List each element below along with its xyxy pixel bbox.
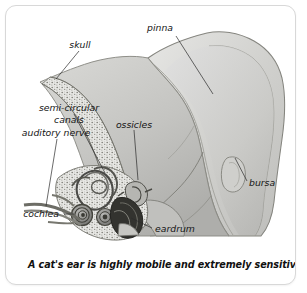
label-auditory-nerve: auditory nerve	[22, 127, 91, 138]
label-skull: skull	[69, 39, 91, 50]
figure-card: pinna skull semi-circular canals auditor…	[5, 5, 296, 285]
figure-caption: A cat's ear is highly mobile and extreme…	[28, 259, 296, 270]
label-ossicles: ossicles	[116, 119, 152, 130]
cat-ear-illustration: pinna skull semi-circular canals auditor…	[6, 6, 295, 244]
caption-bar: A cat's ear is highly mobile and extreme…	[6, 244, 295, 284]
label-cochlea: cochlea	[23, 208, 59, 219]
anatomy-diagram-svg: pinna skull semi-circular canals auditor…	[6, 6, 295, 244]
label-semicircular-canals-line1: semi-circular	[39, 102, 100, 113]
label-pinna: pinna	[146, 22, 173, 33]
label-eardrum: eardrum	[155, 223, 195, 234]
bursa-pouch	[221, 157, 245, 192]
label-bursa: bursa	[249, 177, 275, 188]
label-semicircular-canals-line2: canals	[54, 114, 84, 125]
